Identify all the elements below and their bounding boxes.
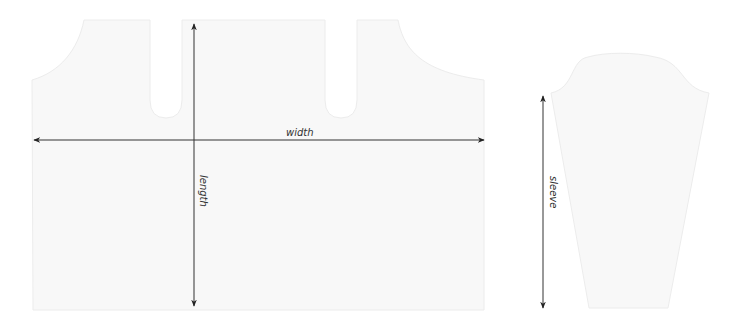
pattern-diagram: width length sleeve — [0, 0, 734, 327]
sleeve-piece — [551, 53, 709, 308]
length-label: length — [198, 175, 209, 207]
body-piece — [32, 20, 484, 310]
width-label: width — [286, 127, 314, 138]
sleeve-label: sleeve — [548, 176, 559, 208]
